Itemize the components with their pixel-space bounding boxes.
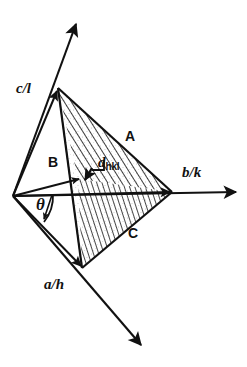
d-spacing-symbol: d: [98, 154, 106, 170]
plane-diagram-svg: [0, 0, 247, 367]
axis-label-c-over-l: c/l: [16, 81, 31, 96]
face-label-b: B: [48, 155, 58, 169]
a-intercept-arrow: [13, 196, 81, 266]
face-label-c: C: [128, 226, 138, 240]
figure-root: c/l b/k a/h A B C dhkl θ: [0, 0, 247, 367]
axis-label-a-over-h: a/h: [44, 277, 64, 292]
d-spacing-label: dhkl: [98, 155, 119, 172]
d-spacing-vector: [13, 179, 79, 196]
theta-angle-label: θ: [36, 196, 45, 213]
axis-label-b-over-k: b/k: [182, 165, 201, 180]
c-intercept-arrow: [13, 91, 57, 196]
face-label-a: A: [125, 129, 135, 143]
d-spacing-subscript: hkl: [106, 161, 120, 172]
